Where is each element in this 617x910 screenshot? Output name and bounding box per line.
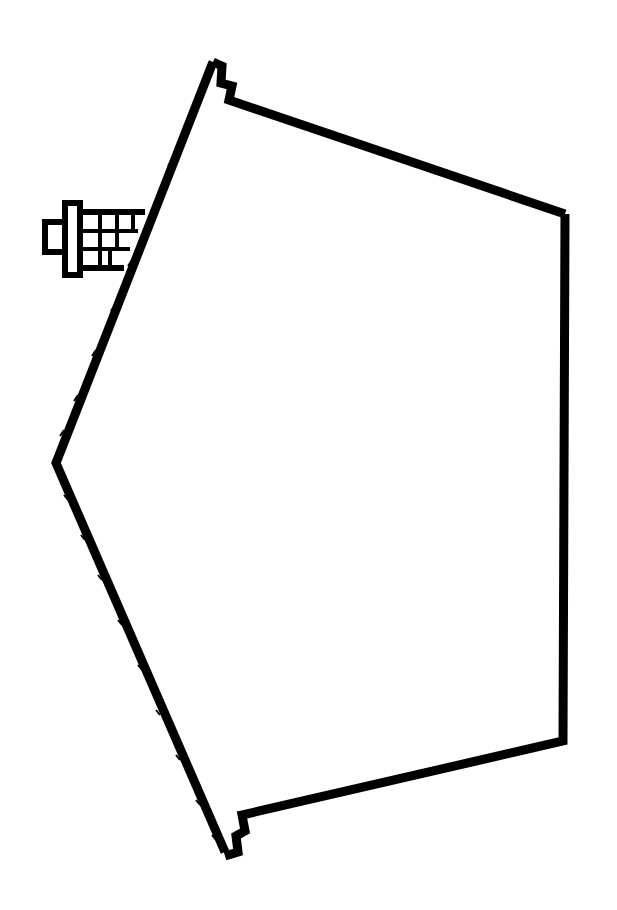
roof-texture xyxy=(60,80,216,840)
chimney-top xyxy=(65,203,80,275)
roof-top-eave xyxy=(213,62,565,214)
house-body xyxy=(56,62,565,856)
roof-outline xyxy=(56,62,225,852)
house-outline-drawing xyxy=(0,0,617,910)
wall-outline xyxy=(225,214,565,856)
chimney-bricks xyxy=(80,212,138,268)
